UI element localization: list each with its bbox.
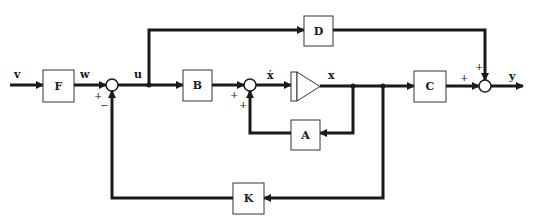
sum2-sign-plus-left: + [230, 89, 238, 100]
block-K-label: K [244, 192, 254, 205]
wire-A-to-sum2 [250, 91, 291, 133]
block-A: A [291, 120, 320, 150]
block-D: D [304, 16, 333, 46]
signal-label-v: v [13, 68, 21, 81]
summing-junction-3 [479, 80, 491, 92]
block-B: B [183, 70, 212, 101]
block-F: F [43, 70, 74, 102]
integrator-block [291, 72, 320, 101]
signal-label-w: w [79, 68, 90, 81]
block-K: K [233, 183, 264, 214]
wire-u-to-D [149, 30, 304, 85]
block-F-label: F [55, 80, 63, 93]
block-A-label: A [300, 129, 310, 142]
sum1-sign-minus: − [100, 100, 108, 111]
block-C-label: C [426, 80, 435, 93]
block-B-label: B [193, 79, 202, 92]
block-D-label: D [314, 25, 324, 38]
signal-label-x: x [328, 69, 335, 82]
block-C: C [414, 71, 446, 102]
block-diagram: v F w + − u D B + + ẋ x [0, 0, 533, 222]
wire-x-to-K [264, 86, 383, 198]
wire-x-to-A [320, 86, 353, 133]
signal-label-xdot: ẋ [267, 69, 274, 82]
signal-label-u: u [134, 68, 142, 81]
sum2-sign-plus-bottom: + [239, 99, 247, 110]
summing-junction-1 [106, 79, 118, 91]
sum3-sign-plus-top: + [475, 61, 483, 72]
signal-label-y: y [508, 70, 516, 83]
sum3-sign-plus-left: + [460, 72, 468, 83]
summing-junction-2 [244, 79, 256, 91]
wire-K-to-sum1 [112, 91, 233, 198]
